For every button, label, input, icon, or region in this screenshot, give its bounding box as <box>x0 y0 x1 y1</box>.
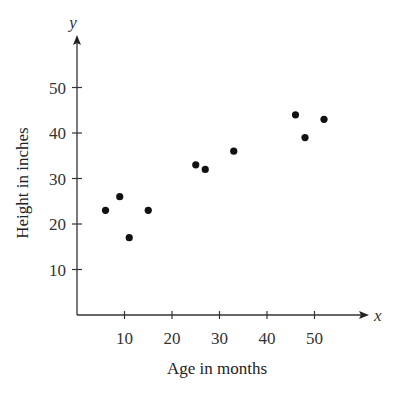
axes <box>73 35 369 319</box>
data-point <box>192 161 199 168</box>
data-point <box>301 134 308 141</box>
data-point <box>145 207 152 214</box>
x-tick-label: 40 <box>259 329 276 348</box>
x-tick-label: 50 <box>306 329 323 348</box>
y-axis-variable: y <box>67 13 77 32</box>
x-axis-title: Age in months <box>167 359 267 378</box>
data-points <box>102 111 328 241</box>
data-point <box>292 111 299 118</box>
data-point <box>320 116 327 123</box>
y-tick-label: 20 <box>49 215 66 234</box>
data-point <box>202 166 209 173</box>
x-tick-label: 30 <box>211 329 228 348</box>
data-point <box>126 234 133 241</box>
y-tick-label: 30 <box>49 170 66 189</box>
x-axis-variable: x <box>373 306 382 325</box>
x-tick-label: 20 <box>164 329 181 348</box>
data-point <box>102 207 109 214</box>
y-axis-title: Height in inches <box>13 127 32 238</box>
data-point <box>116 193 123 200</box>
y-tick-label: 50 <box>49 79 66 98</box>
x-tick-label: 10 <box>116 329 133 348</box>
data-point <box>230 148 237 155</box>
scatter-chart: 10203040501020304050 Age in months Heigh… <box>0 0 397 404</box>
y-tick-label: 10 <box>49 261 66 280</box>
ticks: 10203040501020304050 <box>49 79 323 349</box>
y-tick-label: 40 <box>49 124 66 143</box>
